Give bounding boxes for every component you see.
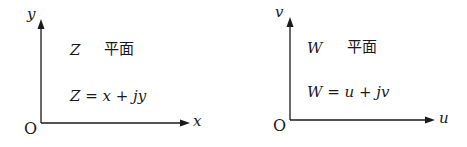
- w-plane-diagram: v u O W 平面 W = u + jv: [233, 0, 467, 147]
- plane-equation: Z = x + jy: [70, 89, 146, 104]
- x-axis-label: x: [193, 114, 201, 129]
- origin-label: O: [273, 118, 286, 134]
- x-axis-arrow-icon: [180, 120, 190, 127]
- plane-title-variable: W: [307, 41, 322, 56]
- plane-title-text: 平面: [104, 42, 134, 57]
- w-plane-axes: [233, 0, 467, 147]
- plane-title-variable: Z: [70, 43, 80, 58]
- plane-equation: W = u + jv: [307, 85, 389, 100]
- y-axis-arrow-icon: [38, 19, 45, 29]
- origin-label: O: [24, 121, 37, 137]
- v-axis-arrow-icon: [287, 17, 294, 27]
- v-axis-label: v: [275, 5, 283, 20]
- z-plane-diagram: y x O Z 平面 Z = x + jy: [0, 0, 233, 147]
- u-axis-arrow-icon: [425, 117, 435, 124]
- u-axis-label: u: [439, 111, 449, 126]
- y-axis-label: y: [27, 7, 35, 22]
- plane-title-text: 平面: [347, 40, 377, 55]
